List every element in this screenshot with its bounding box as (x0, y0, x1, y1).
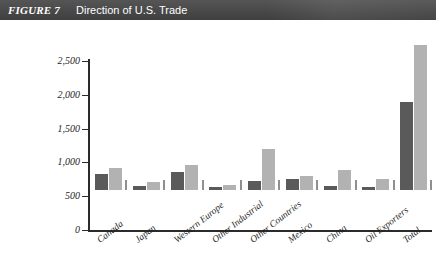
figure-panel: FIGURE 7 Direction of U.S. Trade 05001,0… (0, 0, 436, 275)
x-axis-label-mexico: Mexico (286, 220, 314, 245)
x-axis-label-canada: Canada (95, 218, 125, 244)
x-axis-labels: CanadaJapanWestern EuropeOther Industria… (0, 0, 436, 275)
x-axis-label-total: Total (401, 225, 422, 245)
x-axis-label-japan: Japan (133, 223, 157, 245)
x-axis-label-china: China (324, 223, 348, 245)
